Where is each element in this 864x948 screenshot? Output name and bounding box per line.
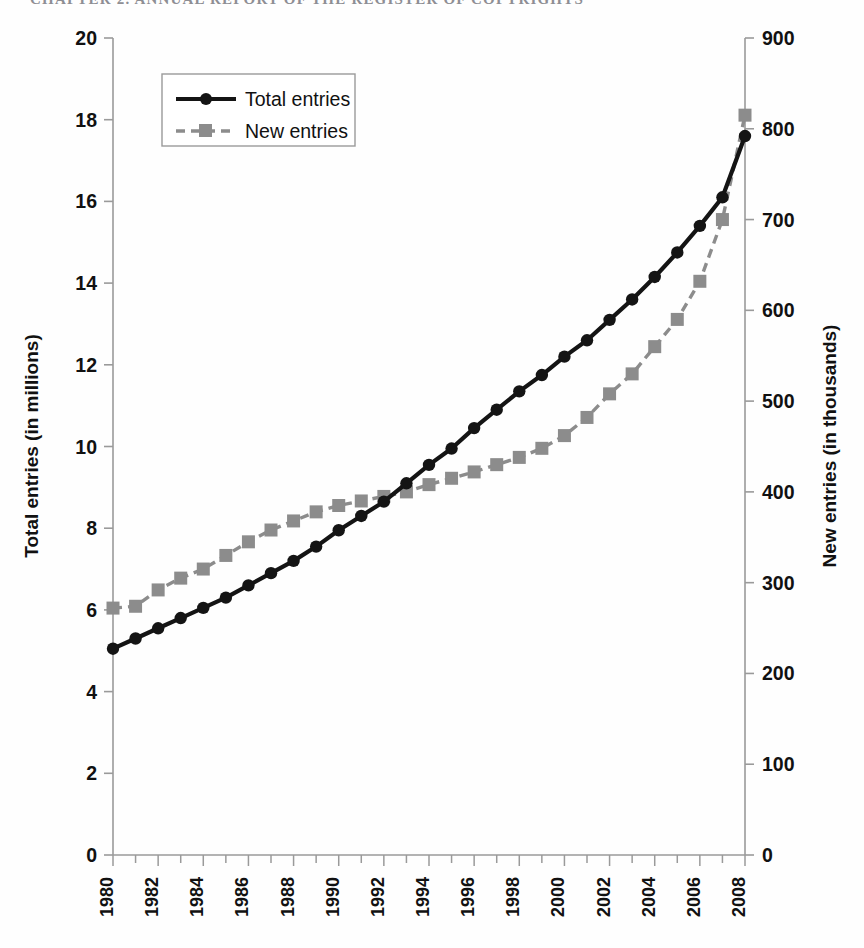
legend-marker-square-new [199,124,212,137]
new-entries-point [107,602,120,615]
new-entries-point [287,514,300,527]
total-entries-point [400,477,412,489]
total-entries-point [242,579,254,591]
right-tick-label: 300 [762,572,795,594]
total-entries-point [513,385,525,397]
total-entries-point [197,602,209,614]
right-axis-ticks [745,38,754,855]
x-tick-label: 1998 [503,877,523,917]
total-entries-point [536,369,548,381]
x-tick-label: 2002 [594,877,614,917]
new-entries-point [219,549,232,562]
x-axis-ticks [113,855,745,866]
new-entries-point [513,451,526,464]
new-entries-point [739,109,752,122]
x-tick-label: 2006 [684,877,704,917]
total-entries-point [265,567,277,579]
new-entries-point [671,313,684,326]
right-tick-label: 600 [762,299,795,321]
right-tick-label: 700 [762,209,795,231]
total-entries-point [626,293,638,305]
left-tick-label: 0 [86,844,97,866]
chart-legend: Total entries New entries [162,74,355,146]
total-entries-point [649,271,661,283]
new-entries-point [423,478,436,491]
new-entries-point [197,563,210,576]
new-entries-point [310,505,323,518]
x-tick-label: 1994 [413,877,433,917]
x-tick-label: 1990 [323,877,343,917]
new-entries-point [693,275,706,288]
total-entries-point [175,612,187,624]
x-axis-tick-labels: 1980198219841986198819901992199419961998… [97,877,749,917]
x-tick-label: 1986 [232,877,252,917]
series-total-entries [107,130,751,655]
legend-label-total-entries: Total entries [245,88,350,110]
right-tick-label: 0 [762,844,773,866]
x-tick-label: 2008 [729,877,749,917]
new-entries-point [152,583,165,596]
total-entries-point [423,459,435,471]
left-tick-label: 20 [75,27,97,49]
new-entries-point [129,600,142,613]
left-tick-label: 6 [86,599,97,621]
x-tick-label: 1988 [278,877,298,917]
new-entries-point [626,367,639,380]
x-tick-label: 1982 [142,877,162,917]
x-tick-label: 1992 [368,877,388,917]
right-tick-label: 100 [762,753,795,775]
total-entries-point [603,314,615,326]
total-entries-point [378,495,390,507]
right-tick-label: 400 [762,481,795,503]
total-entries-point [333,524,345,536]
series-new-entries [107,109,752,615]
new-entries-point [490,458,503,471]
total-entries-point [129,632,141,644]
left-tick-label: 4 [86,681,97,703]
x-tick-label: 1984 [187,877,207,917]
total-entries-point [716,191,728,203]
new-entries-point [332,499,345,512]
left-tick-label: 18 [75,109,97,131]
total-entries-point [107,643,119,655]
left-tick-label: 10 [75,436,97,458]
left-tick-label: 2 [86,762,97,784]
x-tick-label: 2000 [548,877,568,917]
left-tick-label: 16 [75,190,97,212]
x-tick-label: 1980 [97,877,117,917]
dual-axis-line-chart: 02468101214161820 0100200300400500600700… [0,0,864,948]
new-entries-point [581,411,594,424]
left-axis-ticks [104,38,113,855]
left-axis-tick-labels: 02468101214161820 [75,27,97,866]
total-entries-point [287,555,299,567]
left-tick-label: 12 [75,354,97,376]
chart-page: CHAPTER 2. ANNUAL REPORT OF THE REGISTER… [0,0,864,948]
total-entries-point [220,591,232,603]
right-tick-label: 800 [762,118,795,140]
new-entries-point [716,213,729,226]
x-tick-label: 1996 [458,877,478,917]
right-tick-label: 200 [762,662,795,684]
total-entries-point [468,422,480,434]
new-entries-point [265,524,278,537]
x-tick-label: 2004 [639,877,659,917]
legend-label-new-entries: New entries [245,120,348,142]
right-axis-tick-labels: 0100200300400500600700800900 [762,27,795,866]
axes [113,38,745,855]
left-tick-label: 14 [75,272,97,294]
total-entries-point [671,246,683,258]
new-entries-point [535,442,548,455]
new-entries-point [648,340,661,353]
total-entries-point [152,622,164,634]
right-tick-label: 500 [762,390,795,412]
total-entries-point [739,130,751,142]
total-entries-point [355,510,367,522]
new-entries-point [603,387,616,400]
total-entries-point [491,404,503,416]
new-entries-point [355,494,368,507]
total-entries-point [581,334,593,346]
new-entries-point [445,472,458,485]
total-entries-point [694,220,706,232]
chart-svg: 02468101214161820 0100200300400500600700… [0,0,864,948]
new-entries-line [113,115,745,608]
